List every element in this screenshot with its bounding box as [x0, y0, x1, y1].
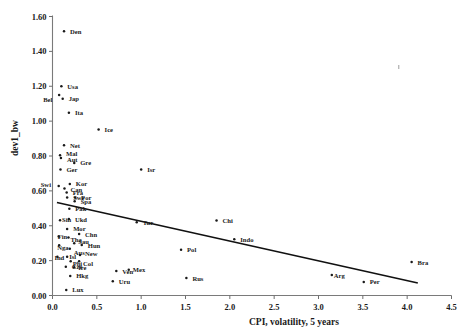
data-point-uru: [112, 280, 115, 283]
data-point-label-fin: Fin: [58, 233, 68, 240]
y-tick-label: 0.00: [32, 291, 47, 301]
data-point-por: [74, 196, 77, 199]
data-point-label-sin: Sin: [62, 216, 71, 223]
regression-line: [57, 203, 418, 283]
x-tick-label: 0.5: [92, 302, 103, 312]
data-point-label-jap: Jap: [69, 95, 80, 102]
data-point-aut: [60, 157, 63, 160]
data-point-chi: [215, 219, 218, 222]
y-tick-label: 1.20: [32, 81, 47, 91]
data-point-ven: [115, 270, 118, 273]
data-point-sau: [73, 242, 76, 245]
y-tick-label: 0.20: [32, 256, 47, 266]
data-point-col: [78, 260, 81, 263]
data-point-per: [362, 281, 365, 284]
data-point-bel: [58, 94, 61, 97]
data-point-label-ire: Ire: [78, 264, 86, 271]
x-tick-label: 1.0: [136, 302, 147, 312]
data-point-label-arg: Arg: [334, 272, 346, 279]
data-point-label-bra: Bra: [418, 259, 429, 266]
x-tick-label: 2.0: [225, 302, 236, 312]
data-point-aus: [69, 248, 72, 251]
data-point-rus: [185, 277, 188, 280]
data-point-ita: [68, 112, 71, 115]
x-tick-label: 3.0: [313, 302, 324, 312]
data-point-label-ita: Ita: [75, 109, 84, 116]
y-tick-label: 1.60: [32, 12, 47, 22]
data-point-arg: [331, 274, 334, 277]
data-point-pak: [68, 207, 71, 210]
data-point-label-gre: Gre: [80, 159, 91, 166]
data-point-cze: [65, 265, 68, 268]
x-tick-label: 4.5: [446, 302, 457, 312]
data-point-ice: [97, 128, 100, 131]
data-point-usa: [60, 85, 63, 88]
data-point-label-pol: Pol: [187, 246, 196, 253]
x-tick-label: 0.0: [47, 302, 58, 312]
data-point-label-chi: Chi: [223, 217, 233, 224]
data-point-sin: [59, 219, 62, 222]
data-point-label-isl: Isl: [69, 253, 76, 260]
data-point-label-ven: Ven: [122, 268, 133, 275]
data-point-swi: [57, 185, 60, 188]
data-point-label-ger: Ger: [66, 166, 77, 173]
data-point-can: [63, 187, 66, 190]
y-tick-label: 0.80: [32, 151, 47, 161]
data-point-mor: [66, 228, 69, 231]
data-point-label-hun: Hun: [88, 242, 101, 249]
data-point-ger: [59, 168, 62, 171]
data-point-label-new: New: [85, 250, 98, 257]
data-point-tur: [135, 221, 138, 224]
data-point-net: [63, 144, 66, 147]
data-point-label-lux: Lux: [72, 286, 84, 293]
data-point-hkg: [69, 275, 72, 278]
data-point-gre: [73, 162, 76, 165]
data-point-mal: [59, 154, 62, 157]
y-tick-label: 1.00: [32, 116, 47, 126]
data-point-phi: [69, 260, 72, 263]
data-point-label-uru: Uru: [119, 278, 131, 285]
x-tick-label: 4.0: [402, 302, 413, 312]
scan-artifact: [398, 65, 399, 69]
data-point-label-nga: Nga: [57, 244, 69, 251]
data-point-isl: [66, 256, 69, 259]
data-point-label-den: Den: [70, 28, 82, 35]
data-point-new: [79, 254, 82, 256]
y-axis-title: dev1_bw: [10, 120, 20, 156]
data-point-label-swi: Swi: [41, 181, 51, 188]
data-point-label-per: Per: [370, 278, 380, 285]
scatter-plot: 0.000.200.400.600.801.001.201.401.600.00…: [0, 0, 464, 332]
data-point-isr: [140, 168, 143, 171]
x-tick-label: 1.5: [180, 302, 191, 312]
data-point-label-usa: Usa: [67, 83, 78, 90]
x-axis-title: CPI, volatility, 5 years: [249, 317, 339, 327]
data-point-label-isr: Isr: [147, 166, 155, 173]
y-tick-label: 1.40: [32, 46, 47, 56]
data-point-label-pak: Pak: [75, 205, 86, 212]
data-point-kor: [69, 183, 72, 186]
data-point-indo: [233, 238, 236, 241]
data-point-label-net: Net: [70, 142, 81, 149]
data-point-label-bel: Bel: [43, 96, 52, 103]
data-point-label-ice: Ice: [105, 126, 113, 133]
data-point-lux: [65, 289, 68, 292]
data-point-swe: [66, 196, 69, 199]
data-point-label-ukd: Ukd: [75, 216, 87, 223]
data-point-label-mex: Mex: [133, 266, 146, 273]
x-tick-label: 3.5: [358, 302, 369, 312]
data-point-fra: [65, 191, 68, 194]
y-tick-label: 0.40: [32, 221, 47, 231]
chart-container: 0.000.200.400.600.801.001.201.401.600.00…: [0, 0, 464, 332]
data-point-label-hkg: Hkg: [76, 272, 89, 279]
data-point-pol: [180, 249, 183, 252]
data-point-label-indo: Indo: [240, 236, 254, 243]
data-point-spa: [73, 200, 76, 203]
data-point-hun: [81, 244, 84, 247]
data-point-label-mor: Mor: [73, 225, 86, 232]
data-point-tha: [67, 236, 70, 239]
data-point-ukd: [68, 218, 71, 221]
data-point-label-rus: Rus: [192, 275, 203, 282]
data-point-jap: [61, 98, 64, 101]
data-point-mex: [128, 268, 131, 271]
data-point-den: [63, 30, 66, 33]
